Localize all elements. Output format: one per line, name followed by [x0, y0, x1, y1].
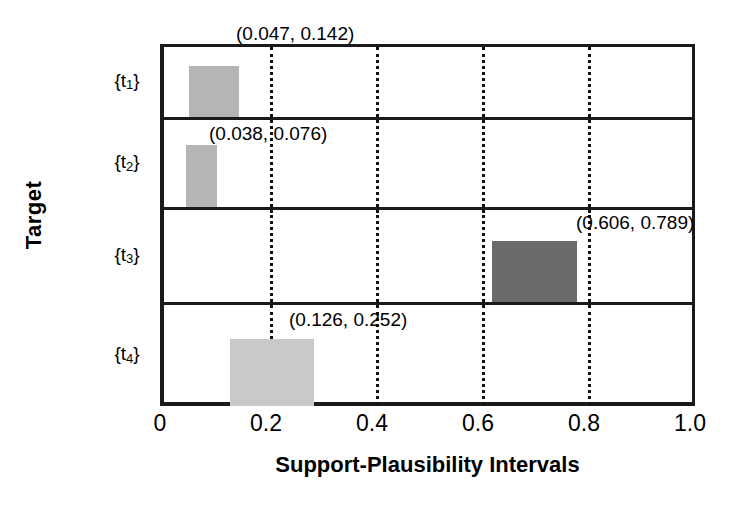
category-label-t1: {t1}	[96, 44, 158, 117]
x-axis-title: Support-Plausibility Intervals	[160, 452, 695, 478]
gridline-0.6	[482, 47, 485, 117]
gridline-0.6	[482, 210, 485, 302]
gridline-0.8	[588, 120, 591, 207]
y-axis-title-container: Target	[10, 0, 58, 430]
gridline-0.2	[270, 210, 273, 302]
gridline-0.4	[376, 47, 379, 117]
gridline-0.2	[270, 47, 273, 117]
category-label-t3-subscript: 3	[126, 251, 133, 266]
x-tick-0.2: 0.2	[250, 410, 282, 437]
category-label-t2-base: {t	[114, 151, 126, 173]
interval-annotation-t1: (0.047, 0.142)	[236, 23, 354, 45]
x-tick-0.8: 0.8	[568, 410, 600, 437]
category-label-t2-close: }	[133, 151, 139, 173]
x-axis-tick-labels: 0 0.2 0.4 0.6 0.8 1.0	[160, 410, 695, 444]
x-tick-0: 0	[154, 410, 167, 437]
category-label-t3: {t3}	[96, 207, 158, 302]
interval-bar-t1	[189, 66, 239, 117]
category-label-t1-subscript: 1	[126, 77, 133, 92]
category-label-t1-base: {t	[114, 70, 126, 92]
panel-t4: (0.126, 0.252)	[164, 302, 692, 406]
chart-figure: Target {t1} {t2} {t3} {t4} (0.047, 0.142…	[0, 0, 748, 508]
category-label-t4-base: {t	[114, 343, 126, 365]
panel-t3: (0.606, 0.789)	[164, 207, 692, 302]
gridline-0.8	[588, 305, 591, 406]
x-tick-0.4: 0.4	[356, 410, 388, 437]
panel-t1: (0.047, 0.142)	[164, 44, 692, 117]
interval-bar-t4	[230, 339, 314, 406]
gridline-0.4	[376, 210, 379, 302]
y-axis-title: Target	[21, 181, 47, 250]
gridline-0.6	[482, 305, 485, 406]
gridline-0.6	[482, 120, 485, 207]
category-label-t3-base: {t	[114, 244, 126, 266]
interval-bar-t3	[492, 241, 577, 302]
plot-area: (0.047, 0.142) (0.038, 0.076) (0.606, 0.…	[160, 44, 695, 406]
x-tick-1.0: 1.0	[674, 410, 706, 437]
gridline-0.8	[588, 47, 591, 117]
category-label-t4: {t4}	[96, 302, 158, 406]
category-label-t1-close: }	[133, 70, 139, 92]
category-label-t2-subscript: 2	[126, 159, 133, 174]
interval-annotation-t3: (0.606, 0.789)	[576, 212, 694, 234]
interval-annotation-t4: (0.126, 0.252)	[289, 309, 407, 331]
category-label-t4-subscript: 4	[126, 351, 133, 366]
category-label-column: {t1} {t2} {t3} {t4}	[96, 44, 158, 406]
interval-bar-t2	[186, 145, 217, 207]
panel-t2: (0.038, 0.076)	[164, 117, 692, 207]
category-label-t4-close: }	[133, 343, 139, 365]
x-tick-0.6: 0.6	[462, 410, 494, 437]
category-label-t3-close: }	[133, 244, 139, 266]
category-label-t2: {t2}	[96, 117, 158, 207]
interval-annotation-t2: (0.038, 0.076)	[209, 123, 327, 145]
gridline-0.4	[376, 120, 379, 207]
